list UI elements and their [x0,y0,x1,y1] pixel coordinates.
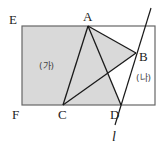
geometry-diagram: E A B C D F (가) (나) l [0,0,165,151]
label-region-ga: (가) [39,61,54,71]
label-region-na: (나) [136,73,151,83]
label-line-l: l [112,129,116,144]
label-point-d: D [110,107,119,122]
label-point-e: E [9,12,17,27]
label-point-a: A [83,9,93,24]
label-point-c: C [58,107,67,122]
label-point-b: B [139,49,148,64]
label-point-f: F [12,107,19,122]
